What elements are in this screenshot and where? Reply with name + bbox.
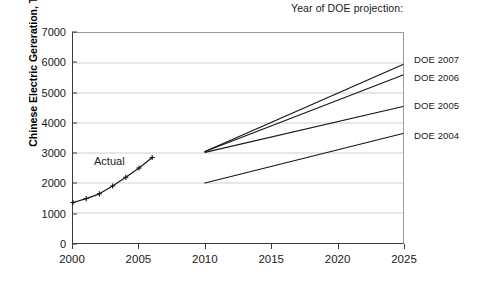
projection-note-label: Year of DOE projection:	[291, 2, 403, 14]
x-axis-tick-mark	[338, 244, 339, 249]
y-axis-tick-mark	[72, 153, 77, 154]
data-series-layer	[73, 33, 403, 243]
y-axis-tick-label: 0	[60, 238, 66, 250]
y-axis-tick-label-group: 70006000500040003000200010000	[14, 32, 66, 244]
y-axis-tick-label: 1000	[42, 208, 66, 220]
x-axis-tick-label: 2025	[391, 253, 417, 265]
series-line-doe-2007	[205, 65, 403, 152]
y-axis-tick-label: 5000	[42, 87, 66, 99]
series-line-doe-2004	[205, 134, 403, 183]
series-legend-label: DOE 2007	[414, 54, 459, 65]
x-axis-tick-mark	[205, 244, 206, 249]
y-axis-tick-mark	[72, 213, 77, 214]
y-axis-tick-label: 3000	[42, 147, 66, 159]
x-axis-tick-label: 2005	[126, 253, 152, 265]
data-point-marker	[70, 200, 75, 205]
chart-figure: Year of DOE projection: Chinese Electric…	[0, 0, 477, 289]
y-axis-tick-mark	[72, 92, 77, 93]
x-axis-tick-mark	[138, 244, 139, 249]
data-point-marker	[84, 196, 89, 201]
actual-series-label: Actual	[94, 155, 125, 167]
y-axis-tick-label: 6000	[42, 56, 66, 68]
x-axis-tick-label: 2000	[59, 253, 85, 265]
y-axis-tick-mark	[72, 122, 77, 123]
series-legend-label: DOE 2005	[414, 100, 459, 111]
y-axis-tick-label: 7000	[42, 26, 66, 38]
series-legend-label: DOE 2006	[414, 72, 459, 83]
y-axis-tick-label: 4000	[42, 117, 66, 129]
plot-area	[72, 32, 404, 244]
series-legend-label: DOE 2004	[414, 130, 459, 141]
data-point-marker	[97, 191, 102, 196]
x-axis-tick-label: 2020	[325, 253, 351, 265]
y-axis-tick-mark	[72, 32, 77, 33]
y-axis-tick-mark	[72, 183, 77, 184]
x-axis-tick-label: 2010	[192, 253, 218, 265]
x-axis-tick-label: 2015	[258, 253, 284, 265]
x-axis-tick-mark	[72, 244, 73, 249]
x-axis-tick-mark	[271, 244, 272, 249]
x-axis-tick-mark	[404, 244, 405, 249]
y-axis-tick-label: 2000	[42, 177, 66, 189]
y-axis-tick-mark	[72, 62, 77, 63]
